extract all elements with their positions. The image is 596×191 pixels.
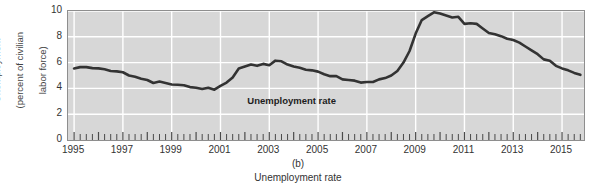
x-tick-2005: 2005 [306, 144, 328, 155]
x-tick-1997: 1997 [111, 144, 133, 155]
x-tick-2009: 2009 [404, 144, 426, 155]
y-axis-title-line2: (percent of civilian [13, 5, 25, 135]
x-tick-1995: 1995 [62, 144, 84, 155]
x-tick-2013: 2013 [501, 144, 523, 155]
y-tick-2: 2 [40, 108, 62, 118]
y-tick-4: 4 [40, 82, 62, 92]
y-tick-6: 6 [40, 57, 62, 67]
x-tick-2003: 2003 [257, 144, 279, 155]
x-tick-2007: 2007 [355, 144, 377, 155]
x-tick-1999: 1999 [160, 144, 182, 155]
chart-canvas [68, 11, 584, 140]
x-tick-2011: 2011 [453, 144, 475, 155]
figure-caption: Unemployment rate [0, 172, 596, 183]
figure-unemployment-rate: Unemployment (percent of civilian labor … [0, 0, 596, 191]
chart-annotation-0: Unemployment rate [247, 95, 336, 106]
plot-area: Unemployment rate [67, 10, 585, 141]
x-tick-2001: 2001 [208, 144, 230, 155]
x-axis-tick-labels: 1995199719992001200320052007200920112013… [0, 144, 596, 158]
y-tick-10: 10 [40, 5, 62, 15]
series-line-unemployment-rate [74, 12, 580, 89]
x-axis-minor-ticks [74, 132, 580, 140]
y-axis-title-line1: Unemployment [0, 5, 2, 135]
y-tick-0: 0 [40, 134, 62, 144]
x-tick-2015: 2015 [550, 144, 572, 155]
panel-letter: (b) [0, 158, 596, 169]
y-tick-8: 8 [40, 31, 62, 41]
